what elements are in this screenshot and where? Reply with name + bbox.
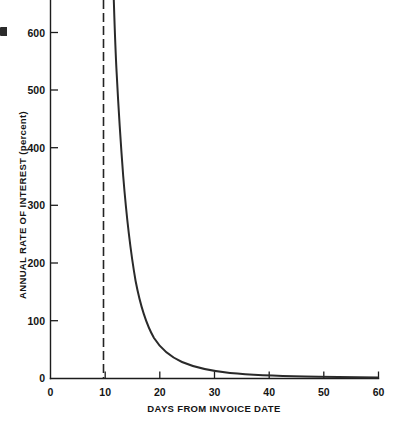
x-tick-label-50: 50 [318, 386, 330, 398]
interest-rate-chart: 600 500 400 300 200 100 0 0 10 20 30 40 … [0, 0, 399, 427]
x-tick-label-0: 0 [48, 386, 54, 398]
x-tick-label-30: 30 [209, 386, 221, 398]
y-tick-label-200: 200 [27, 257, 45, 269]
y-tick-label-400: 400 [27, 142, 45, 154]
x-tick-label-10: 10 [99, 386, 111, 398]
y-axis-tick-labels: 600 500 400 300 200 100 0 [27, 27, 45, 385]
y-axis-ticks [51, 33, 59, 321]
figure-container: 600 500 400 300 200 100 0 0 10 20 30 40 … [0, 0, 399, 427]
x-axis-tick-labels: 0 10 20 30 40 50 60 [48, 386, 385, 398]
y-tick-label-0: 0 [39, 372, 45, 384]
y-axis-title: ANNUAL RATE OF INTEREST (percent) [17, 111, 28, 299]
y-tick-label-300: 300 [27, 199, 45, 211]
x-axis-title: DAYS FROM INVOICE DATE [147, 403, 280, 414]
y-tick-label-600: 600 [27, 27, 45, 39]
x-tick-label-40: 40 [263, 386, 275, 398]
y-tick-label-500: 500 [27, 84, 45, 96]
x-tick-label-60: 60 [373, 386, 385, 398]
interest-rate-curve [114, 0, 378, 378]
y-tick-label-100: 100 [27, 315, 45, 327]
page-margin-mark [0, 27, 7, 36]
x-tick-label-20: 20 [154, 386, 166, 398]
